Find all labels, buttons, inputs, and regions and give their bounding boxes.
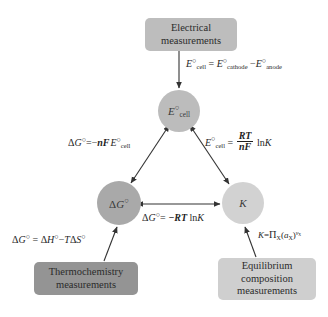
equation-gibbs-from-enthalpy: ΔG○ = ΔH○−TΔS○ — [12, 233, 86, 245]
arrow-equilibrium-to-k — [245, 227, 256, 257]
electrical-box-line-1: Electrical — [171, 22, 211, 34]
ecell-circle: E○cell — [158, 90, 200, 132]
equilibrium-box-line-2: composition — [241, 273, 293, 285]
thermo-box-line-1: Thermochemistry — [49, 266, 124, 278]
equation-cell-potential: E○cell = E○cathode −E○anode — [186, 57, 282, 70]
thermo-box-line-2: measurements — [56, 279, 116, 291]
electrical-measurements-box: Electrical measurements — [145, 18, 237, 51]
equation-k-definition: K=ΠX(aX)νX — [258, 229, 301, 241]
equilibrium-composition-measurements-box: Equilibrium composition measurements — [218, 258, 316, 300]
delta-g-circle-label: ΔG○ — [109, 196, 129, 210]
arrow-ecell-to-delta-g — [131, 130, 166, 183]
ecell-circle-label: E○cell — [168, 103, 190, 119]
equilibrium-box-line-1: Equilibrium — [242, 260, 293, 272]
equation-gibbs-from-cell: ΔG○=−nF E○cell — [68, 136, 130, 149]
equation-cell-from-k: E○cell = RTnF lnK — [205, 131, 271, 152]
k-circle-label: K — [239, 197, 246, 209]
equilibrium-box-line-3: measurements — [237, 285, 297, 297]
arrow-thermo-to-delta-g — [104, 227, 117, 261]
delta-g-circle: ΔG○ — [97, 181, 141, 225]
thermochemistry-measurements-box: Thermochemistry measurements — [34, 262, 138, 295]
electrical-box-line-2: measurements — [161, 35, 221, 47]
thermodynamics-electrochemistry-diagram: · · · · ·· · ·· · ·· ··· ·· ··· · · ·· ·… — [0, 0, 328, 317]
equation-gibbs-from-k: ΔG○= −RT lnK — [142, 211, 204, 223]
k-circle: K — [222, 182, 264, 224]
